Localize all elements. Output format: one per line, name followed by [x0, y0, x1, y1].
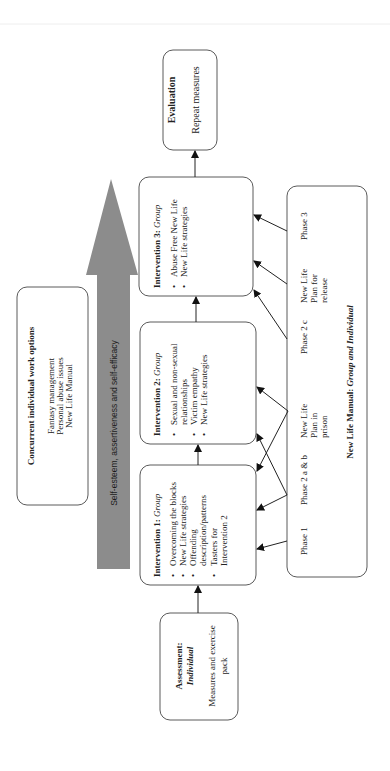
- arrow-phase1-to-int1: [257, 541, 287, 549]
- assessment-title: Assessment:: [174, 643, 184, 690]
- bullet-text-cont: description/patterns: [198, 495, 208, 566]
- bullet-icon: •: [169, 285, 179, 288]
- bullet-icon: •: [209, 574, 219, 577]
- bullet-text: New Life strategies: [199, 354, 209, 425]
- bullet-text: New Life strategies: [178, 495, 188, 566]
- new-life-manual-box: Phase 1 Phase 2 a & b New Life Plan in p…: [287, 186, 367, 577]
- phase-1-label: Phase 1: [299, 527, 309, 555]
- concurrent-line: New Life Manual: [64, 364, 74, 428]
- growth-arrow-label: Self-esteem, assertiveness and self-effi…: [109, 339, 119, 505]
- bullet-icon: •: [168, 574, 178, 577]
- intervention-programme-diagram: Evaluation Repeat measures Self-esteem, …: [0, 0, 390, 771]
- growth-arrow: Self-esteem, assertiveness and self-effi…: [86, 179, 138, 569]
- bullet-text: Tasters for: [209, 528, 219, 566]
- evaluation-box: Evaluation Repeat measures: [163, 50, 217, 150]
- plan-in-prison-label: New Life: [299, 404, 309, 438]
- concurrent-title: Concurrent individual work options: [26, 326, 36, 465]
- evaluation-body: Repeat measures: [190, 66, 201, 134]
- bullet-text: New Life strategies: [179, 206, 189, 277]
- arrow-plan-prison-to-int2: [257, 387, 288, 411]
- intervention-1-title: Intervention 1: Group: [152, 493, 162, 577]
- bullet-text: Victim empathy: [189, 367, 199, 425]
- arrow-plan-release-to-int3: [254, 261, 287, 284]
- arrow-phase2ab-to-int2: [257, 434, 287, 495]
- assessment-box: Assessment: Individual Measures and exer…: [160, 613, 238, 720]
- phase-3-label: Phase 3: [299, 212, 309, 240]
- plan-for-release-label: Plan for: [309, 274, 319, 303]
- arrow-phase2ab-to-int1: [257, 495, 287, 510]
- plan-for-release-label: New Life: [299, 269, 309, 303]
- intervention-2-title: Intervention 2: Group: [152, 352, 162, 436]
- plan-for-release-label: release: [319, 278, 329, 303]
- bullet-text-cont: relationships: [179, 379, 189, 425]
- bullet-text: Overcoming the blocks: [168, 482, 178, 566]
- assessment-subtitle: Individual: [185, 646, 195, 686]
- bullet-icon: •: [179, 285, 189, 288]
- bullet-icon: •: [169, 433, 179, 436]
- intervention-1-box: Intervention 1: Group • Overcoming the b…: [140, 465, 256, 585]
- phase-2ab-label: Phase 2 a & b: [299, 455, 309, 505]
- bullet-icon: •: [178, 574, 188, 577]
- bullet-text: Sexual and non-sexual: [169, 343, 179, 425]
- phase-2c-label: Phase 2 c: [299, 320, 309, 354]
- intervention-3-box: Intervention 3: Group • Abuse Free New L…: [139, 177, 253, 296]
- manual-footer: New Life Manual: Group and Individual: [345, 305, 355, 459]
- arrow-phase2c-to-int3: [254, 290, 287, 339]
- plan-in-prison-label: Plan in: [309, 412, 319, 438]
- assessment-body-line: pack: [219, 657, 229, 674]
- intervention-2-box: Intervention 2: Group • Sexual and non-s…: [140, 322, 256, 444]
- concurrent-options-box: Concurrent individual work options Fanta…: [17, 287, 88, 505]
- bullet-icon: •: [199, 433, 209, 436]
- bullet-text: Abuse Free New Life: [169, 199, 179, 277]
- evaluation-title: Evaluation: [166, 76, 177, 123]
- arrow-phase3-to-int3: [254, 215, 287, 231]
- assessment-body-line: Measures and exercise: [207, 625, 217, 706]
- intervention-3-title: Intervention 3: Group: [152, 204, 162, 288]
- plan-in-prison-label: prison: [319, 415, 329, 438]
- arrow-plan-prison-to-int1: [257, 411, 288, 471]
- bullet-icon: •: [188, 574, 198, 577]
- bullet-text: Offending: [188, 529, 198, 566]
- bullet-icon: •: [189, 433, 199, 436]
- bullet-text-cont: Intervention 2: [219, 515, 229, 566]
